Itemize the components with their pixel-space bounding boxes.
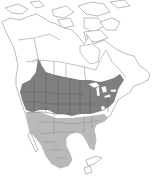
range-map [0,0,162,188]
caribbean-islands [84,156,102,174]
north-america-map [0,0,162,188]
